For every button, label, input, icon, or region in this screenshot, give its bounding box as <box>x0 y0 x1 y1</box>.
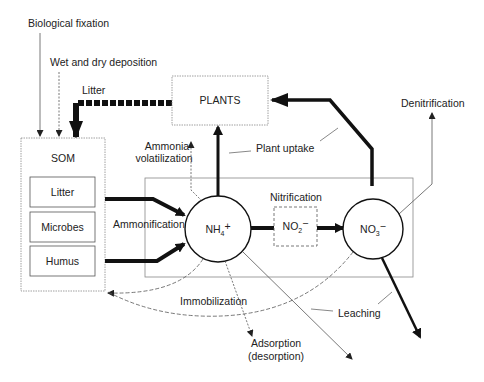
nitrification-flow: Nitrification NO2− <box>251 191 343 246</box>
adsorption-label-2: (desorption) <box>248 350 304 362</box>
nh4-immobilization-curve <box>108 259 203 293</box>
leaching-leader-2 <box>378 292 392 304</box>
immobilization-label: Immobilization <box>180 295 247 307</box>
som-litter-label: Litter <box>51 186 75 198</box>
litter-to-nh4-arrow <box>105 199 184 215</box>
som-box: SOM Litter Microbes Humus <box>21 138 105 291</box>
nh4-node: NH4+ <box>185 196 251 262</box>
denitrification-flow: Denitrification <box>399 97 465 214</box>
litter-flow: Litter <box>76 84 172 137</box>
plant-uptake-label: Plant uptake <box>256 142 315 154</box>
ammonia-volatilization-label-1: Ammonia <box>145 140 190 152</box>
biological-fixation-label: Biological fixation <box>28 17 109 29</box>
no3-node: NO3− <box>343 199 403 259</box>
litter-flow-label: Litter <box>82 84 106 96</box>
leaching-label-group: Leaching <box>311 292 392 319</box>
ammonia-volatilization-arrow <box>191 142 202 201</box>
denitrification-arrow <box>399 113 432 214</box>
deposition-label: Wet and dry deposition <box>50 56 157 68</box>
leaching-label: Leaching <box>338 307 381 319</box>
plants-box: PLANTS <box>172 76 268 125</box>
ammonification-label: Ammonification <box>113 218 185 230</box>
adsorption-label-1: Adsorption <box>251 337 301 349</box>
deposition-flow: Wet and dry deposition <box>50 56 157 136</box>
som-humus-label: Humus <box>46 255 79 267</box>
adsorption-flow: Adsorption (desorption) <box>225 261 304 362</box>
denitrification-label: Denitrification <box>401 97 465 109</box>
humus-to-nh4-arrow <box>105 244 184 261</box>
plant-uptake-leader-1 <box>229 151 251 153</box>
leaching-leader-1 <box>311 309 333 311</box>
plant-uptake-leader-2 <box>320 128 338 141</box>
nitrification-label: Nitrification <box>270 191 322 203</box>
ammonia-volatilization-label-2: volatilization <box>135 152 192 164</box>
nitrogen-cycle-diagram: Biological fixation Wet and dry depositi… <box>0 0 484 382</box>
som-microbes-label: Microbes <box>41 221 84 233</box>
biological-fixation-flow: Biological fixation <box>28 17 109 136</box>
som-label: SOM <box>51 152 75 164</box>
no3-leaching-arrow <box>382 258 420 337</box>
plants-label: PLANTS <box>200 94 241 106</box>
